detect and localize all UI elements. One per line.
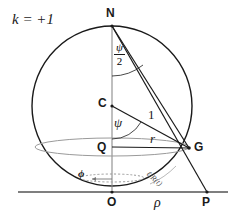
length-label-r: r <box>150 132 155 145</box>
point-dot-n <box>110 24 113 27</box>
point-label-o: O <box>107 196 116 208</box>
geometry-figure <box>0 0 242 224</box>
segment-n-p <box>112 26 207 192</box>
angle-label-phi: ϕ <box>78 168 84 179</box>
half-psi-denominator: 2 <box>114 55 125 67</box>
curvature-label: k = +1 <box>12 12 54 27</box>
point-dot-p <box>205 190 208 193</box>
half-psi-numerator: ψ <box>114 42 125 54</box>
length-label-unit: 1 <box>148 108 155 121</box>
point-label-q: Q <box>97 141 106 153</box>
azimuth-arrowhead <box>92 177 96 181</box>
diagram-canvas: k = +1 N C Q G O P ψ 2 ψ 1 r ρ ϕ ℓ/R(t) <box>0 0 242 224</box>
point-label-n: N <box>106 7 115 19</box>
length-label-rho: ρ <box>154 196 161 210</box>
point-dot-g <box>187 146 191 150</box>
point-label-p: P <box>202 196 210 208</box>
point-label-g: G <box>194 141 203 153</box>
point-dot-o <box>110 190 113 193</box>
angle-label-psi: ψ <box>114 116 122 129</box>
segment-q-g <box>112 147 189 148</box>
angle-label-half-psi: ψ 2 <box>114 42 125 67</box>
point-dot-c <box>110 104 113 107</box>
point-label-c: C <box>98 97 107 109</box>
